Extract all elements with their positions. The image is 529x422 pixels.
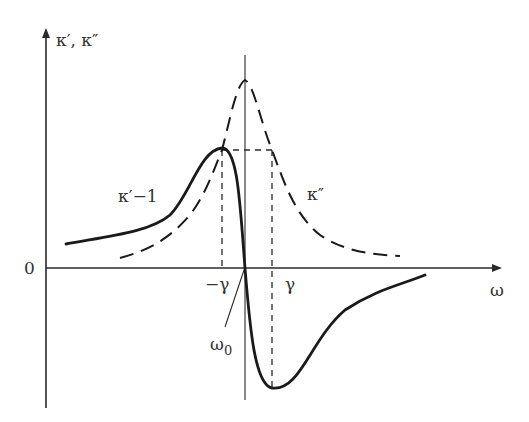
x-axis-label: ω bbox=[490, 280, 504, 300]
gamma-label: γ bbox=[285, 274, 295, 294]
minus-gamma-label: −γ bbox=[205, 274, 229, 294]
origin-label: 0 bbox=[24, 258, 35, 278]
imag-curve-label: κ″ bbox=[307, 184, 324, 204]
resonance-diagram: κ′, κ″ ω 0 −γ γ ω0 κ′−1 κ″ bbox=[0, 0, 529, 422]
y-axis-label: κ′, κ″ bbox=[56, 30, 98, 50]
omega0-label: ω0 bbox=[210, 334, 232, 358]
real-curve-label: κ′−1 bbox=[118, 186, 158, 206]
imag-curve bbox=[120, 80, 400, 258]
